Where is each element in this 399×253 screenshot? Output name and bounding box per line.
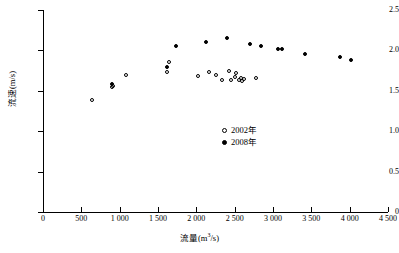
data-point-series-1 [207, 70, 211, 74]
data-point-series-1 [227, 69, 231, 73]
data-point-series-2 [259, 44, 263, 48]
legend-item: 2002年 [222, 124, 257, 136]
data-point-series-1 [242, 77, 246, 81]
data-point-series-2 [248, 42, 252, 46]
x-tick-mark [120, 207, 121, 212]
x-tick-label: 4 000 [341, 215, 359, 223]
y-tick-label: 2.5 [365, 6, 399, 14]
data-point-series-2 [303, 52, 307, 56]
x-tick-label: 4 500 [379, 215, 397, 223]
y-tick-mark [38, 212, 43, 213]
data-point-series-2 [338, 55, 342, 59]
data-point-series-1 [254, 76, 258, 80]
data-point-series-1 [214, 73, 218, 77]
data-point-series-1 [90, 98, 94, 102]
x-tick-label: 3 500 [302, 215, 320, 223]
legend-item: 2008年 [222, 136, 257, 148]
y-tick-label: 2.0 [365, 46, 399, 54]
data-point-series-2 [110, 82, 114, 86]
x-tick-mark [158, 207, 159, 212]
chart-legend: 2002年2008年 [222, 124, 257, 148]
legend-label: 2002年 [231, 124, 257, 136]
legend-label: 2008年 [231, 136, 257, 148]
y-tick-mark [38, 50, 43, 51]
data-point-series-1 [220, 78, 224, 82]
open-circle-icon [222, 128, 227, 133]
data-point-series-1 [229, 78, 233, 82]
x-tick-label: 500 [75, 215, 87, 223]
x-tick-label: 2 500 [226, 215, 244, 223]
data-point-series-2 [280, 47, 284, 51]
filled-circle-icon [222, 140, 227, 145]
y-tick-label: 1.0 [365, 127, 399, 135]
y-tick-mark [38, 172, 43, 173]
x-tick-label: 1 500 [149, 215, 167, 223]
x-tick-mark [311, 207, 312, 212]
x-tick-label: 3 000 [264, 215, 282, 223]
data-point-series-2 [225, 36, 229, 40]
y-axis-title: 流速(m/s) [5, 54, 17, 124]
data-point-series-1 [124, 73, 128, 77]
x-tick-mark [388, 207, 389, 212]
x-tick-mark [235, 207, 236, 212]
y-tick-label: 0.5 [365, 168, 399, 176]
x-tick-label: 2 000 [187, 215, 205, 223]
data-point-series-2 [165, 65, 169, 69]
data-point-series-2 [276, 47, 280, 51]
data-point-series-1 [167, 60, 171, 64]
scatter-chart: 00.51.01.52.02.5 05001 0001 5002 0002 50… [0, 0, 399, 253]
x-axis-line [43, 212, 388, 213]
data-point-series-2 [349, 58, 353, 62]
x-tick-mark [196, 207, 197, 212]
data-point-series-1 [233, 75, 237, 79]
x-tick-mark [81, 207, 82, 212]
y-tick-mark [38, 91, 43, 92]
data-point-series-1 [196, 74, 200, 78]
data-point-series-1 [234, 71, 238, 75]
x-axis-title: 流量(m3/s) [0, 231, 399, 243]
y-axis-line [43, 10, 44, 213]
y-tick-label: 1.5 [365, 87, 399, 95]
x-tick-mark [350, 207, 351, 212]
data-point-series-2 [174, 44, 178, 48]
data-point-series-2 [204, 40, 208, 44]
data-point-series-1 [165, 70, 169, 74]
y-tick-mark [38, 10, 43, 11]
y-tick-mark [38, 131, 43, 132]
x-tick-label: 0 [41, 215, 45, 223]
x-tick-mark [273, 207, 274, 212]
x-tick-label: 1 000 [111, 215, 129, 223]
